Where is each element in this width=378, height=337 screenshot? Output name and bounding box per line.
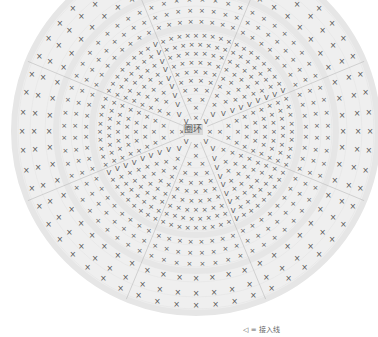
stitch-x-icon: × [112, 54, 118, 62]
stitch-x-icon: × [225, 89, 231, 97]
stitch-x-icon: × [151, 170, 157, 178]
stitch-x-icon: × [149, 252, 155, 260]
stitch-x-icon: × [210, 223, 216, 231]
stitch-x-icon: × [297, 23, 304, 32]
stitch-x-icon: V [123, 162, 128, 170]
stitch-x-icon: × [267, 210, 273, 218]
stitch-x-icon: × [299, 49, 305, 57]
stitch-x-icon: × [127, 169, 133, 177]
stitch-x-icon: × [180, 214, 186, 222]
stitch-x-icon: × [139, 280, 146, 289]
stitch-x-icon: × [229, 285, 236, 294]
stitch-x-icon: V [166, 75, 171, 83]
stitch-x-icon: × [212, 259, 218, 267]
stitch-x-icon: × [178, 177, 184, 185]
stitch-x-icon: × [265, 31, 271, 39]
stitch-x-icon: × [32, 145, 39, 154]
stitch-x-icon: × [141, 19, 147, 27]
stitch-x-icon: × [275, 99, 281, 107]
stitch-x-icon: × [118, 173, 124, 181]
stitch-x-icon: × [250, 109, 256, 117]
stitch-x-icon: × [282, 226, 288, 234]
stitch-x-icon: × [99, 145, 105, 153]
stitch-x-icon: × [168, 221, 174, 229]
stitch-x-icon: × [209, 19, 215, 27]
stitch-x-icon: × [272, 234, 278, 242]
stitch-x-icon: × [238, 53, 244, 61]
stitch-x-icon: × [238, 203, 244, 211]
stitch-x-icon: × [198, 197, 204, 205]
stitch-x-icon: V [166, 146, 171, 154]
stitch-x-icon: × [207, 128, 213, 136]
stitch-x-icon: × [314, 134, 320, 142]
stitch-x-icon: × [262, 123, 268, 131]
stitch-x-icon: × [210, 33, 216, 41]
stitch-x-icon: × [307, 242, 314, 251]
stitch-x-icon: × [112, 38, 118, 46]
stitch-x-icon: × [207, 60, 213, 68]
stitch-x-icon: × [129, 0, 136, 4]
stitch-x-icon: × [259, 40, 265, 48]
stitch-x-icon: × [114, 183, 120, 191]
stitch-x-icon: × [110, 176, 116, 184]
stitch-x-icon: × [86, 155, 92, 163]
stitch-x-icon: × [78, 35, 85, 44]
stitch-x-icon: × [234, 242, 240, 250]
stitch-x-icon: × [138, 73, 144, 81]
stitch-x-icon: × [193, 104, 199, 112]
stitch-x-icon: × [144, 113, 150, 121]
stitch-x-icon: × [110, 80, 116, 88]
stitch-x-icon: × [193, 170, 199, 178]
stitch-x-icon: × [222, 11, 228, 19]
stitch-x-icon: × [357, 184, 364, 193]
stitch-x-icon: × [103, 95, 109, 103]
stitch-x-icon: × [84, 144, 90, 152]
stitch-x-icon: × [271, 137, 277, 145]
stitch-x-icon: V [173, 92, 178, 100]
stitch-x-icon: × [114, 251, 121, 260]
stitch-x-icon: × [242, 189, 248, 197]
stitch-x-icon: × [117, 145, 123, 153]
stitch-x-icon: × [277, 149, 283, 157]
stitch-x-icon: × [156, 24, 162, 32]
stitch-x-icon: × [211, 8, 217, 16]
stitch-x-icon: × [248, 49, 254, 57]
stitch-x-icon: × [124, 133, 130, 141]
stitch-x-icon: × [297, 231, 304, 240]
stitch-x-icon: × [154, 160, 160, 168]
stitch-x-icon: × [200, 160, 206, 168]
stitch-x-icon: × [288, 111, 294, 119]
stitch-x-icon: × [215, 63, 221, 71]
stitch-x-icon: × [248, 183, 254, 191]
stitch-x-icon: × [208, 79, 214, 87]
stitch-x-icon: × [223, 98, 229, 106]
stitch-x-icon: V [170, 83, 175, 91]
stitch-x-icon: V [264, 94, 269, 102]
stitch-x-icon: × [180, 42, 186, 50]
stitch-x-icon: × [84, 263, 91, 272]
stitch-x-icon: × [224, 66, 230, 74]
stitch-x-icon: × [164, 11, 170, 19]
stitch-x-icon: × [137, 222, 143, 230]
stitch-x-icon: × [164, 210, 170, 218]
stitch-x-icon: V [221, 181, 226, 189]
stitch-x-icon: V [163, 66, 168, 74]
stitch-x-icon: × [116, 137, 122, 145]
stitch-x-icon: × [157, 285, 164, 294]
stitch-x-icon: × [121, 31, 127, 39]
stitch-x-icon: × [74, 184, 80, 192]
stitch-x-icon: × [291, 217, 297, 225]
stitch-x-icon: × [57, 235, 64, 244]
stitch-x-icon: × [111, 99, 117, 107]
stitch-x-icon: × [180, 196, 186, 204]
stitch-x-icon: × [245, 19, 251, 27]
stitch-x-icon: × [271, 251, 278, 260]
stitch-x-icon: × [97, 136, 103, 144]
stitch-x-icon: × [242, 113, 248, 121]
stitch-x-icon: × [145, 211, 151, 219]
stitch-x-icon: × [175, 248, 181, 256]
stitch-x-icon: × [175, 8, 181, 16]
stitch-x-icon: × [331, 78, 338, 87]
stitch-x-icon: × [246, 280, 253, 289]
stitch-x-icon: × [123, 180, 129, 188]
